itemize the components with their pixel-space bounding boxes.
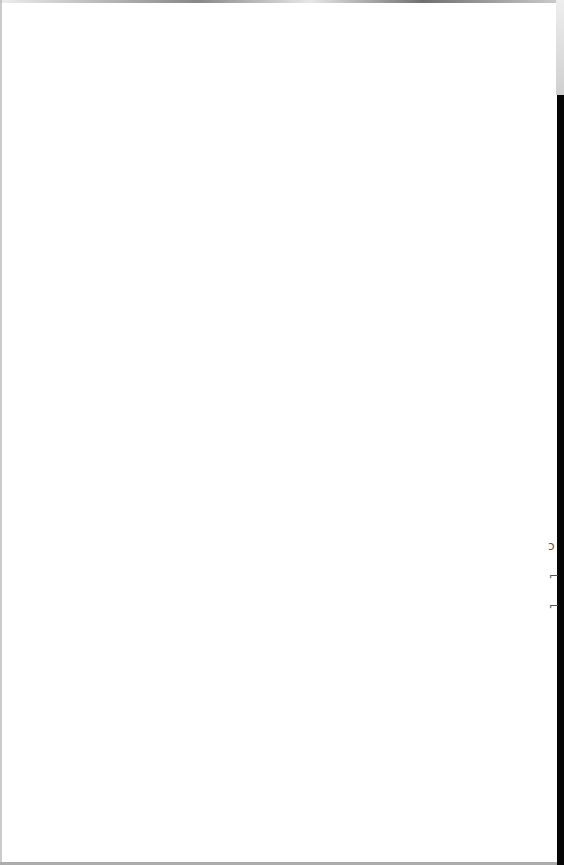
scan-right-edge-top: [556, 0, 564, 95]
blank-page: [2, 2, 558, 862]
margin-mark-1: ↄ: [548, 540, 555, 552]
margin-mark-2: ⌐: [549, 570, 559, 582]
scan-right-black-strip: [557, 95, 564, 865]
scan-left-edge: [0, 0, 2, 865]
margin-mark-3: ⌐: [549, 600, 559, 612]
scan-top-edge: [0, 0, 564, 3]
